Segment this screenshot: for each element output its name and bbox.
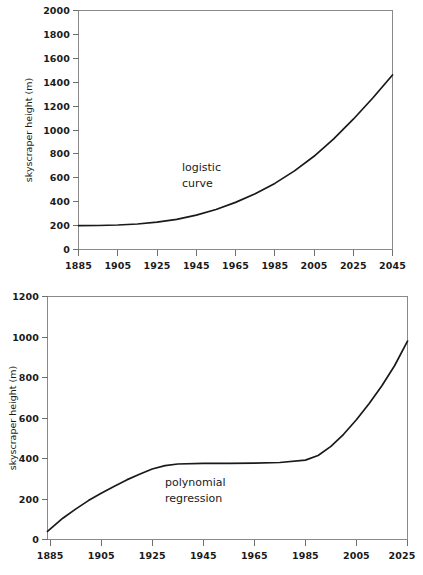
y-tick-label-600: 600 bbox=[50, 172, 70, 183]
y-tick-label-1200: 1200 bbox=[43, 101, 70, 112]
y-tick-label-1600: 1600 bbox=[43, 53, 70, 64]
y-tick-label-1000: 1000 bbox=[12, 332, 39, 343]
x-tick-label-2005: 2005 bbox=[343, 550, 370, 561]
y-tick-label-1400: 1400 bbox=[43, 77, 70, 88]
x-tick-label-1985: 1985 bbox=[261, 260, 288, 271]
x-axis-ticks bbox=[50, 540, 407, 547]
annotation-logistic-line1: logistic bbox=[182, 161, 221, 174]
figure-skyscraper-height-projections: 2000 1800 1600 1400 1200 1000 800 600 40… bbox=[0, 0, 423, 575]
x-tick-label-1905: 1905 bbox=[104, 260, 131, 271]
x-tick-label-1925: 1925 bbox=[144, 260, 171, 271]
y-tick-label-600: 600 bbox=[19, 413, 39, 424]
y-tick-label-200: 200 bbox=[50, 220, 70, 231]
x-tick-label-2025: 2025 bbox=[340, 260, 367, 271]
y-tick-label-800: 800 bbox=[50, 148, 70, 159]
x-tick-label-1945: 1945 bbox=[190, 550, 217, 561]
chart-panel-logistic: 2000 1800 1600 1400 1200 1000 800 600 40… bbox=[0, 0, 423, 285]
y-tick-label-400: 400 bbox=[19, 453, 39, 464]
plot-frame bbox=[79, 11, 393, 250]
x-tick-label-2045: 2045 bbox=[379, 260, 406, 271]
y-axis-ticks bbox=[73, 11, 79, 250]
y-tick-label-1000: 1000 bbox=[43, 125, 70, 136]
x-tick-label-1885: 1885 bbox=[37, 550, 64, 561]
polynomial-regression-chart: 1200 1000 800 600 400 200 0 1885 1905 19… bbox=[0, 285, 423, 575]
y-tick-label-400: 400 bbox=[50, 196, 70, 207]
x-tick-label-1985: 1985 bbox=[292, 550, 319, 561]
y-tick-label-800: 800 bbox=[19, 372, 39, 383]
x-tick-label-1965: 1965 bbox=[222, 260, 249, 271]
y-axis-ticks bbox=[42, 297, 48, 540]
chart-panel-polynomial: 1200 1000 800 600 400 200 0 1885 1905 19… bbox=[0, 285, 423, 575]
data-curve-polynomial bbox=[48, 341, 408, 531]
x-tick-label-1925: 1925 bbox=[139, 550, 166, 561]
y-tick-label-1800: 1800 bbox=[43, 29, 70, 40]
x-tick-label-1945: 1945 bbox=[183, 260, 210, 271]
y-axis-title: skyscraper height (m) bbox=[7, 366, 18, 470]
logistic-curve-chart: 2000 1800 1600 1400 1200 1000 800 600 40… bbox=[0, 0, 423, 285]
x-tick-label-1905: 1905 bbox=[88, 550, 115, 561]
annotation-logistic-line2: curve bbox=[182, 177, 213, 190]
y-tick-label-0: 0 bbox=[63, 244, 70, 255]
y-tick-label-2000: 2000 bbox=[43, 5, 70, 16]
annotation-polynomial-line1: polynomial bbox=[165, 476, 226, 489]
annotation-polynomial-line2: regression bbox=[165, 492, 222, 505]
x-tick-label-2025: 2025 bbox=[389, 550, 416, 561]
x-axis-ticks bbox=[79, 250, 393, 257]
x-tick-label-2005: 2005 bbox=[301, 260, 328, 271]
x-tick-label-1885: 1885 bbox=[65, 260, 92, 271]
y-tick-label-200: 200 bbox=[19, 494, 39, 505]
y-tick-label-1200: 1200 bbox=[12, 291, 39, 302]
plot-frame bbox=[48, 297, 408, 540]
y-tick-label-0: 0 bbox=[32, 534, 39, 545]
x-tick-label-1965: 1965 bbox=[241, 550, 268, 561]
y-axis-title: skyscraper height (m) bbox=[23, 78, 34, 182]
data-curve-logistic bbox=[79, 75, 393, 226]
